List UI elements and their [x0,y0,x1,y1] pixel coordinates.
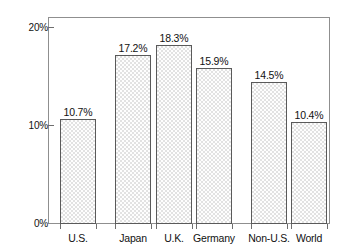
bar-value-label: 14.5% [239,69,299,81]
x-axis-tick-mark [196,224,197,229]
bar-u-k[interactable] [156,45,192,224]
y-axis-tick-label-10: 10% [14,121,48,131]
y-axis-tick-mark-10 [48,125,54,126]
x-axis-tick-mark [192,224,193,229]
bar-value-label: 10.4% [279,109,339,121]
x-axis-tick-mark [60,224,61,229]
y-axis-tick-label-20: 20% [14,23,48,33]
x-axis-tick-mark [327,224,328,229]
x-axis-tick-mark [115,224,116,229]
bar-germany[interactable] [196,68,232,224]
y-axis-tick-20: 20% [0,23,48,33]
x-axis-tick-mark [96,224,97,229]
x-axis-tick-mark [251,224,252,229]
x-axis-tick-mark [156,224,157,229]
bar-world[interactable] [291,122,327,224]
bar-u-s[interactable] [60,119,96,224]
x-axis-label-world: World [269,232,349,244]
x-axis-tick-mark [232,224,233,229]
x-axis-tick-mark [287,224,288,229]
y-axis-tick-0: 0% [0,219,48,229]
bar-value-label: 18.3% [144,32,204,44]
y-axis-tick-mark-20 [48,27,54,28]
bar-non-u-s[interactable] [251,82,287,224]
x-axis-tick-mark [151,224,152,229]
bar-value-label: 17.2% [103,42,163,54]
x-axis-tick-mark [291,224,292,229]
y-axis-tick-label-0: 0% [14,219,48,229]
bar-japan[interactable] [115,55,151,224]
bar-value-label: 15.9% [184,55,244,67]
y-axis-tick-10: 10% [0,121,48,131]
bar-value-label: 10.7% [48,106,108,118]
bar-chart: 20% 10% 0% 10.7%U.S.17.2%Japan18.3%U.K.1… [0,0,356,251]
